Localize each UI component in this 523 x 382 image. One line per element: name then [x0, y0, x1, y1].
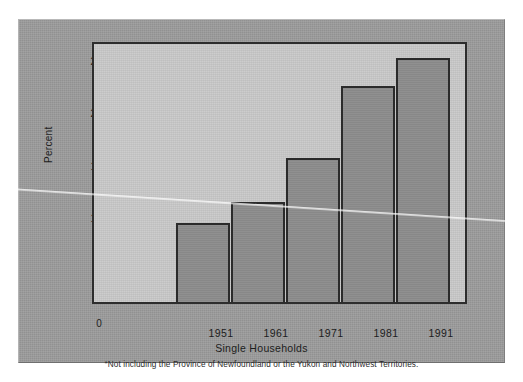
x-axis-tick-label: 1981: [374, 327, 399, 339]
bar-1951: [176, 223, 230, 302]
x-axis-label: Single Households: [19, 342, 504, 354]
plot-area: [92, 42, 467, 304]
x-axis-tick-label: 1951: [209, 327, 234, 339]
x-axis-tick-label: 1961: [264, 327, 289, 339]
y-axis-tick-label: 0: [96, 318, 102, 329]
y-axis-label: Percent: [43, 126, 54, 163]
bar-1991: [396, 58, 450, 302]
bar-series: [94, 44, 465, 302]
x-axis-tick-label: 1991: [429, 327, 454, 339]
bar-1981: [341, 86, 395, 302]
footnote-text: Not including the Province of Newfoundla…: [108, 360, 419, 369]
bar-1971: [286, 158, 340, 302]
figure-panel: Percent 0510152025 19511961197119811991 …: [18, 19, 505, 363]
x-axis-tick-labels: 19511961197119811991: [110, 327, 487, 343]
footnote: *Not including the Province of Newfoundl…: [19, 360, 504, 369]
x-axis-tick-label: 1971: [319, 327, 344, 339]
bar-1961: [231, 202, 285, 302]
